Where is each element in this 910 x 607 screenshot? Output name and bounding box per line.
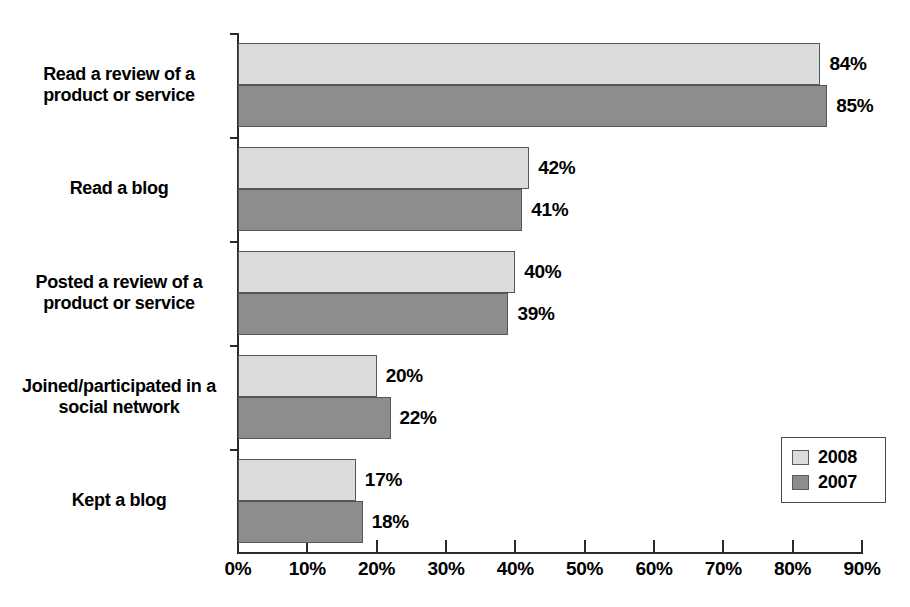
bar-value-label: 22% bbox=[400, 407, 437, 429]
category-label: Posted a review of aproduct or service bbox=[8, 272, 230, 314]
x-axis-tick bbox=[584, 540, 586, 553]
bar-value-label: 18% bbox=[372, 511, 409, 533]
bar-2007-4 bbox=[238, 397, 391, 439]
bar-2008-5 bbox=[238, 459, 356, 501]
bar-value-label: 40% bbox=[524, 261, 561, 283]
x-axis-tick bbox=[792, 540, 794, 553]
bar-value-label: 84% bbox=[829, 53, 866, 75]
y-category-tick bbox=[230, 137, 239, 139]
legend-item-2007: 2007 bbox=[792, 470, 885, 495]
category-label: Read a blog bbox=[8, 178, 230, 199]
bar-2007-5 bbox=[238, 501, 363, 543]
bar-value-label: 17% bbox=[365, 469, 402, 491]
bar-value-label: 39% bbox=[517, 303, 554, 325]
bar-2007-2 bbox=[238, 189, 522, 231]
y-category-tick bbox=[230, 241, 239, 243]
y-axis-top-cap bbox=[230, 33, 239, 35]
legend: 2008 2007 bbox=[781, 437, 886, 503]
x-axis-tick bbox=[445, 540, 447, 553]
legend-item-2008: 2008 bbox=[792, 445, 885, 470]
x-axis-tick-label: 70% bbox=[705, 558, 742, 580]
y-category-tick bbox=[230, 449, 239, 451]
legend-swatch-2008 bbox=[792, 450, 809, 465]
bar-2008-4 bbox=[238, 355, 377, 397]
x-axis-tick-label: 80% bbox=[774, 558, 811, 580]
category-label: Read a review of aproduct or service bbox=[8, 64, 230, 106]
bar-2007-1 bbox=[238, 85, 827, 127]
category-label: Kept a blog bbox=[8, 490, 230, 511]
x-axis-tick-label: 50% bbox=[566, 558, 603, 580]
x-axis-tick-label: 0% bbox=[225, 558, 252, 580]
x-axis-tick-label: 10% bbox=[289, 558, 326, 580]
x-axis-tick bbox=[653, 540, 655, 553]
bar-2007-3 bbox=[238, 293, 508, 335]
legend-swatch-2007 bbox=[792, 475, 809, 490]
x-axis-tick-label: 20% bbox=[358, 558, 395, 580]
x-axis-tick-label: 60% bbox=[635, 558, 672, 580]
bar-value-label: 20% bbox=[386, 365, 423, 387]
legend-label-2008: 2008 bbox=[818, 447, 857, 468]
x-axis-line bbox=[237, 552, 863, 554]
bar-chart: 0%10%20%30%40%50%60%70%80%90% Read a rev… bbox=[0, 0, 910, 607]
x-axis-tick bbox=[514, 540, 516, 553]
bar-2008-1 bbox=[238, 43, 820, 85]
y-category-tick bbox=[230, 345, 239, 347]
bar-value-label: 41% bbox=[531, 199, 568, 221]
bar-2008-2 bbox=[238, 147, 529, 189]
x-axis-tick-label: 90% bbox=[843, 558, 880, 580]
x-axis-tick-label: 30% bbox=[427, 558, 464, 580]
category-label: Joined/participated in asocial network bbox=[8, 376, 230, 418]
x-axis-tick-label: 40% bbox=[497, 558, 534, 580]
bar-value-label: 85% bbox=[836, 95, 873, 117]
bar-2008-3 bbox=[238, 251, 515, 293]
bar-value-label: 42% bbox=[538, 157, 575, 179]
x-axis-tick bbox=[722, 540, 724, 553]
x-axis-tick bbox=[861, 540, 863, 553]
legend-label-2007: 2007 bbox=[818, 472, 857, 493]
x-axis-tick bbox=[376, 540, 378, 553]
